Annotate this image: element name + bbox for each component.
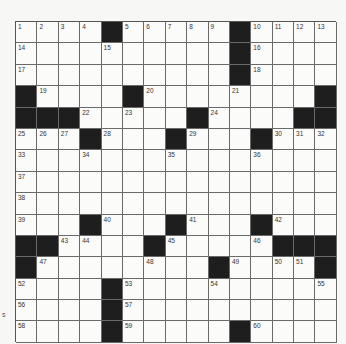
crossword-cell[interactable]	[123, 43, 144, 64]
crossword-cell[interactable]: 48	[144, 257, 165, 278]
crossword-cell[interactable]	[59, 215, 80, 236]
crossword-cell[interactable]	[294, 172, 315, 193]
crossword-cell[interactable]	[102, 108, 123, 129]
crossword-cell[interactable]: 50	[273, 257, 294, 278]
crossword-cell[interactable]: 54	[209, 279, 230, 300]
crossword-cell[interactable]	[59, 172, 80, 193]
crossword-cell[interactable]	[187, 172, 208, 193]
crossword-cell[interactable]	[102, 65, 123, 86]
crossword-cell[interactable]	[187, 321, 208, 342]
crossword-cell[interactable]	[166, 65, 187, 86]
crossword-cell[interactable]	[315, 193, 336, 214]
crossword-cell[interactable]	[209, 300, 230, 321]
crossword-cell[interactable]	[230, 215, 251, 236]
crossword-cell[interactable]	[123, 150, 144, 171]
crossword-cell[interactable]: 17	[16, 65, 37, 86]
crossword-cell[interactable]	[80, 300, 101, 321]
crossword-cell[interactable]	[59, 300, 80, 321]
crossword-cell[interactable]	[102, 193, 123, 214]
crossword-cell[interactable]	[144, 108, 165, 129]
crossword-cell[interactable]: 6	[144, 22, 165, 43]
crossword-cell[interactable]	[80, 257, 101, 278]
crossword-cell[interactable]	[166, 86, 187, 107]
crossword-cell[interactable]	[273, 300, 294, 321]
crossword-cell[interactable]: 22	[80, 108, 101, 129]
crossword-cell[interactable]	[230, 172, 251, 193]
crossword-cell[interactable]: 35	[166, 150, 187, 171]
crossword-cell[interactable]	[166, 300, 187, 321]
crossword-cell[interactable]	[37, 150, 58, 171]
crossword-cell[interactable]	[80, 65, 101, 86]
crossword-cell[interactable]: 30	[273, 129, 294, 150]
crossword-cell[interactable]	[294, 65, 315, 86]
crossword-cell[interactable]: 15	[102, 43, 123, 64]
crossword-cell[interactable]	[166, 108, 187, 129]
crossword-cell[interactable]	[315, 172, 336, 193]
crossword-cell[interactable]	[59, 257, 80, 278]
crossword-cell[interactable]: 59	[123, 321, 144, 342]
crossword-cell[interactable]: 11	[273, 22, 294, 43]
crossword-cell[interactable]	[294, 150, 315, 171]
crossword-cell[interactable]	[123, 193, 144, 214]
crossword-cell[interactable]	[59, 279, 80, 300]
crossword-cell[interactable]: 12	[294, 22, 315, 43]
crossword-cell[interactable]	[166, 257, 187, 278]
crossword-cell[interactable]	[144, 215, 165, 236]
crossword-cell[interactable]: 33	[16, 150, 37, 171]
crossword-cell[interactable]	[123, 129, 144, 150]
crossword-cell[interactable]	[273, 150, 294, 171]
crossword-cell[interactable]	[209, 86, 230, 107]
crossword-cell[interactable]	[251, 172, 272, 193]
crossword-cell[interactable]	[102, 172, 123, 193]
crossword-cell[interactable]	[294, 279, 315, 300]
crossword-cell[interactable]	[294, 300, 315, 321]
crossword-cell[interactable]	[187, 236, 208, 257]
crossword-cell[interactable]: 5	[123, 22, 144, 43]
crossword-cell[interactable]	[230, 193, 251, 214]
crossword-cell[interactable]	[59, 65, 80, 86]
crossword-cell[interactable]	[166, 321, 187, 342]
crossword-cell[interactable]	[37, 193, 58, 214]
crossword-cell[interactable]	[59, 150, 80, 171]
crossword-cell[interactable]	[187, 43, 208, 64]
crossword-cell[interactable]	[80, 86, 101, 107]
crossword-cell[interactable]	[166, 193, 187, 214]
crossword-cell[interactable]	[294, 43, 315, 64]
crossword-cell[interactable]: 49	[230, 257, 251, 278]
crossword-cell[interactable]: 27	[59, 129, 80, 150]
crossword-cell[interactable]	[294, 86, 315, 107]
crossword-cell[interactable]: 7	[166, 22, 187, 43]
crossword-cell[interactable]	[166, 279, 187, 300]
crossword-cell[interactable]	[294, 215, 315, 236]
crossword-cell[interactable]	[102, 257, 123, 278]
crossword-cell[interactable]: 25	[16, 129, 37, 150]
crossword-cell[interactable]: 1	[16, 22, 37, 43]
crossword-cell[interactable]: 41	[187, 215, 208, 236]
crossword-cell[interactable]	[102, 150, 123, 171]
crossword-cell[interactable]	[187, 86, 208, 107]
crossword-cell[interactable]: 21	[230, 86, 251, 107]
crossword-cell[interactable]	[230, 150, 251, 171]
crossword-cell[interactable]: 46	[251, 236, 272, 257]
crossword-cell[interactable]	[315, 43, 336, 64]
crossword-cell[interactable]	[80, 321, 101, 342]
crossword-cell[interactable]	[37, 279, 58, 300]
crossword-cell[interactable]: 40	[102, 215, 123, 236]
crossword-cell[interactable]	[166, 43, 187, 64]
crossword-cell[interactable]	[251, 300, 272, 321]
crossword-cell[interactable]	[59, 321, 80, 342]
crossword-cell[interactable]	[273, 86, 294, 107]
crossword-cell[interactable]: 47	[37, 257, 58, 278]
crossword-cell[interactable]	[144, 43, 165, 64]
crossword-cell[interactable]	[315, 300, 336, 321]
crossword-cell[interactable]	[230, 129, 251, 150]
crossword-cell[interactable]	[273, 321, 294, 342]
crossword-cell[interactable]: 18	[251, 65, 272, 86]
crossword-cell[interactable]	[273, 279, 294, 300]
crossword-cell[interactable]: 36	[251, 150, 272, 171]
crossword-cell[interactable]: 20	[144, 86, 165, 107]
crossword-cell[interactable]: 4	[80, 22, 101, 43]
crossword-cell[interactable]: 34	[80, 150, 101, 171]
crossword-cell[interactable]	[187, 65, 208, 86]
crossword-cell[interactable]	[187, 150, 208, 171]
